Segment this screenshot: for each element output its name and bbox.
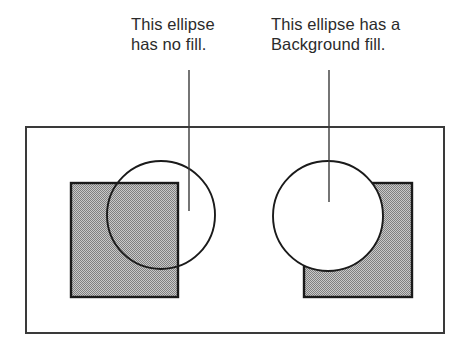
callout-no-fill-line1: This ellipse (131, 14, 215, 34)
left-gray-rectangle (71, 183, 178, 297)
callout-background-fill-line1: This ellipse has a (271, 14, 400, 34)
ellipse-fill-figure: This ellipse has no fill. This ellipse h… (0, 0, 470, 345)
example-no-fill-group (71, 161, 215, 297)
example-background-fill-group (273, 161, 412, 297)
right-ellipse-background-fill (273, 161, 383, 271)
callout-no-fill-line2: has no fill. (131, 34, 215, 54)
callout-background-fill-line2: Background fill. (271, 34, 400, 54)
callout-background-fill-label: This ellipse has a Background fill. (271, 14, 400, 54)
callout-no-fill-label: This ellipse has no fill. (131, 14, 215, 54)
